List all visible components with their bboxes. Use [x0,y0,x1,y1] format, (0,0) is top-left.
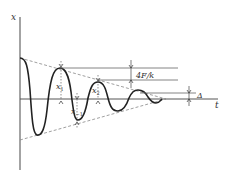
label-x2: x2 [92,86,100,96]
damped-oscillation-diagram: x t x1 x2 x−1 4F/k Δ [0,0,232,177]
label-decrement: 4F/k [135,71,154,80]
y-axis-label: x [11,12,16,22]
oscillation-curve [20,58,162,135]
label-x1: x1 [56,82,64,92]
label-delta: Δ [196,91,203,100]
t-axis-label: t [215,100,219,110]
lower-envelope [20,99,166,140]
